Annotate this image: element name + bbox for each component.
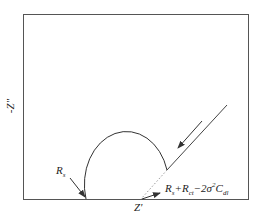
rs-arrow [70, 178, 85, 197]
x-axis-label: Z' [134, 201, 142, 213]
intercept-label: Rs+Rct−2σ2Cdl [165, 181, 228, 197]
semicircle-curve [84, 132, 167, 199]
rs-label: Rs [56, 164, 65, 179]
intercept-arrow [142, 193, 160, 199]
warburg-line [167, 105, 227, 170]
y-axis-label: -Z" [4, 99, 16, 113]
direction-arrow [178, 121, 202, 148]
